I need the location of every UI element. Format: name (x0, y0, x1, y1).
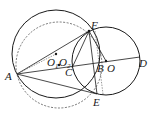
label-f: F (90, 19, 98, 31)
label-d: D (138, 57, 147, 69)
label-o2: O2 (59, 56, 71, 70)
label-o1: O1 (47, 56, 58, 70)
point-o1 (55, 53, 57, 55)
segment-ae (17, 74, 97, 94)
point-f (88, 30, 91, 33)
label-o: O (107, 62, 115, 74)
segment-fc (72, 31, 89, 68)
segment-fe (89, 31, 97, 94)
diagram-svg: A F E B O D C O1 O2 (0, 0, 153, 117)
segment-fo (89, 31, 106, 61)
segment-ad (17, 57, 140, 74)
geometry-diagram: A F E B O D C O1 O2 (0, 0, 153, 117)
label-a: A (4, 70, 12, 82)
label-e: E (92, 96, 100, 108)
label-b: B (97, 62, 104, 74)
